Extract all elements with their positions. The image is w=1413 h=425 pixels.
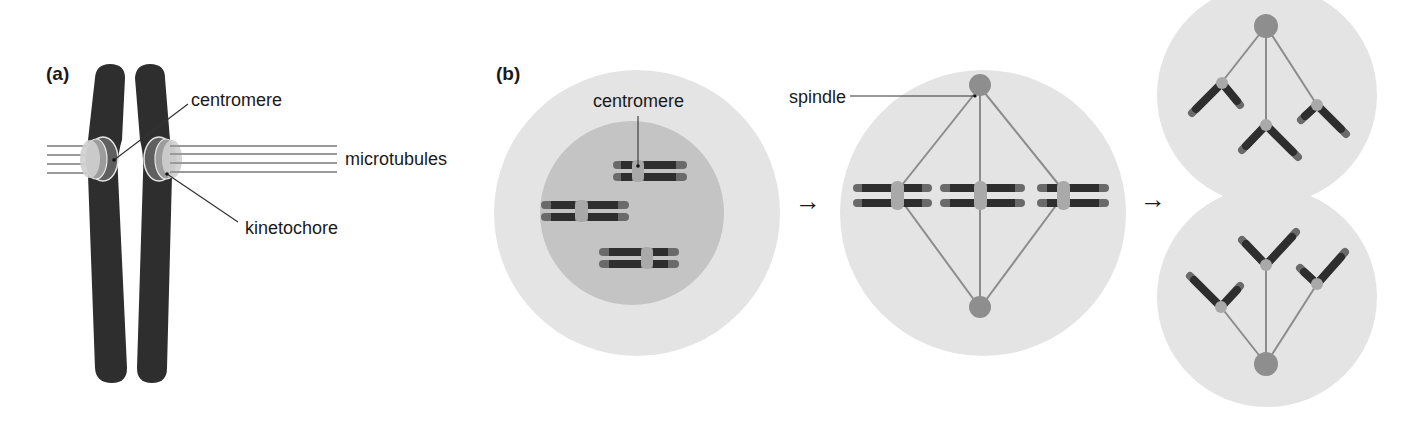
kinetochore-right [144, 137, 182, 181]
panel-a: (a) [46, 63, 447, 383]
panel-a-label: (a) [46, 63, 69, 84]
panel-b-label: (b) [496, 63, 520, 84]
microtubules-right [170, 146, 337, 172]
cell-anaphase [1157, 0, 1377, 407]
centromere-label-a: centromere [191, 90, 282, 110]
centromere-label-b: centromere [593, 91, 684, 111]
spindle-pole-bottom [969, 296, 991, 318]
chromosome-right [135, 64, 172, 383]
cell-prophase: centromere [494, 70, 780, 356]
arrow-right-icon: → [795, 186, 821, 216]
arrow-right-icon: → [1140, 184, 1166, 214]
mitosis-diagram: (a) [0, 0, 1413, 425]
spindle-pole-top [1254, 14, 1278, 38]
spindle-pole-bottom [1254, 352, 1278, 376]
spindle-label: spindle [789, 87, 846, 107]
kinetochore-label: kinetochore [245, 218, 338, 238]
panel-b: (b) [494, 0, 1377, 407]
spindle-pole-top [969, 74, 991, 96]
kinetochore-left [80, 137, 118, 181]
microtubules-label: microtubules [345, 149, 447, 169]
cell-metaphase: spindle [789, 70, 1126, 356]
callout-microtubules: microtubules [345, 149, 447, 169]
callout-kinetochore: kinetochore [165, 172, 338, 238]
chromosome-left [87, 64, 127, 383]
